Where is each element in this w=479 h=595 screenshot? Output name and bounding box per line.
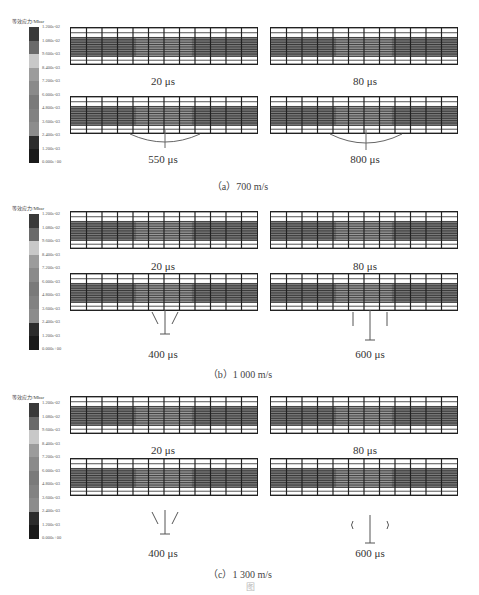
mesh-grid [71,397,257,433]
legend-tick: 0.000e+00 [42,535,61,540]
time-label: 400 μs [133,348,193,360]
mesh-panel [70,96,258,134]
crater-deformation [330,130,402,152]
mesh-grid [71,212,257,248]
legend-tick: 1.200e-02 [42,24,61,29]
mesh-panel [270,273,458,311]
mesh-grid [271,274,457,310]
subfigure-caption: （c）1 300 m/s [140,566,340,581]
legend-b: 等效应力/Mbar 1.200e-02 1.080e-02 9.600e-03 … [12,204,72,354]
mesh-grid [71,97,257,133]
time-label: 400 μs [133,547,193,559]
subfigure-caption: （a）700 m/s [140,178,340,193]
mesh-grid [71,459,257,495]
time-label: 600 μs [340,348,400,360]
legend-tick: 6.000e-03 [42,468,61,473]
legend-tick: 7.200e-03 [42,78,61,83]
legend-tick: 0.000e+00 [42,159,61,164]
time-label: 600 μs [340,547,400,559]
spall-fragment [345,515,395,550]
legend-title: 等效应力/Mbar [12,393,72,400]
time-label: 80 μs [335,75,395,87]
time-label: 20 μs [133,444,193,456]
legend-tick: 7.200e-03 [42,265,61,270]
legend-tick: 9.600e-03 [42,51,61,56]
legend-tick: 4.800e-03 [42,292,61,297]
crater-deformation [130,130,200,150]
legend-tick: 3.600e-03 [42,306,61,311]
legend-tick: 8.400e-03 [42,65,61,70]
legend-tick: 9.600e-03 [42,427,61,432]
legend-tick: 6.000e-03 [42,92,61,97]
mesh-grid [271,397,457,433]
mesh-panel [270,96,458,134]
colorbar [29,403,39,539]
legend-tick: 4.800e-03 [42,105,61,110]
legend-title: 等效应力/Mbar [12,204,72,211]
legend-tick: 8.400e-03 [42,441,61,446]
time-label: 80 μs [335,444,395,456]
legend-tick: 2.400e-03 [42,132,61,137]
mesh-grid [271,459,457,495]
time-label: 20 μs [133,260,193,272]
legend-tick: 1.080e-02 [42,38,61,43]
legend-tick: 1.200e-02 [42,211,61,216]
time-label: 550 μs [133,153,193,165]
legend-tick: 3.600e-03 [42,495,61,500]
legend-tick: 1.080e-02 [42,225,61,230]
legend-tick: 3.600e-03 [42,119,61,124]
legend-tick: 1.200e-03 [42,522,61,527]
legend-tick: 2.400e-03 [42,508,61,513]
legend-a: 等效应力/Mbar 1.200e-02 1.080e-02 9.600e-03 … [12,17,72,167]
colorbar [29,27,39,163]
spall-fragment [345,310,395,345]
mesh-panel [70,396,258,434]
mesh-panel [270,211,458,249]
mesh-panel [270,27,458,65]
mesh-panel [270,396,458,434]
mesh-panel [70,273,258,311]
time-label: 800 μs [335,153,395,165]
time-label: 20 μs [133,75,193,87]
legend-title: 等效应力/Mbar [12,17,72,24]
mesh-grid [71,28,257,64]
subfigure-caption: （b）1 000 m/s [140,366,340,381]
mesh-grid [71,274,257,310]
mesh-grid [271,212,457,248]
figure-caption: 图 [150,580,350,593]
mesh-panel [70,458,258,496]
legend-tick: 1.080e-02 [42,414,61,419]
legend-tick: 7.200e-03 [42,454,61,459]
mesh-panel [70,211,258,249]
mesh-grid [271,97,457,133]
legend-tick: 1.200e-03 [42,333,61,338]
mesh-grid [271,28,457,64]
legend-tick: 0.000e+00 [42,346,61,351]
legend-tick: 4.800e-03 [42,481,61,486]
legend-c: 等效应力/Mbar 1.200e-02 1.080e-02 9.600e-03 … [12,393,72,543]
legend-tick: 8.400e-03 [42,252,61,257]
mesh-panel [70,27,258,65]
legend-tick: 6.000e-03 [42,279,61,284]
spall-fragment [140,510,190,540]
legend-tick: 1.200e-02 [42,400,61,405]
time-label: 80 μs [335,260,395,272]
spall-fragment [140,310,190,340]
colorbar [29,214,39,350]
legend-tick: 2.400e-03 [42,319,61,324]
mesh-panel [270,458,458,496]
legend-tick: 9.600e-03 [42,238,61,243]
legend-tick: 1.200e-03 [42,146,61,151]
